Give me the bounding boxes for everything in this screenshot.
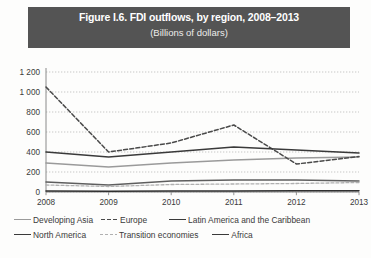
x-axis-tick-label: 2013 (350, 198, 369, 207)
legend-row-2: North America Transition economies Afric… (14, 227, 364, 242)
legend-label-developing-asia: Developing Asia (33, 215, 93, 225)
x-axis-tick-labels: 200820092010201120122013 (37, 198, 369, 207)
figure-subtitle: (Billions of dollars) (28, 26, 350, 39)
chart-plot-area: 02004006008001 0001 200 2008200920102011… (0, 56, 371, 208)
legend-swatch-bar (14, 234, 31, 236)
legend-item-transition-economies[interactable]: Transition economies (100, 230, 198, 240)
y-axis-tick-label: 1 000 (20, 88, 41, 97)
figure-title-banner: Figure I.6. FDI outflows, by region, 200… (28, 7, 350, 48)
chart-legend: Developing Asia Europe Latin America and… (14, 212, 364, 242)
legend-item-europe[interactable]: Europe (101, 215, 147, 225)
gridlines-group (46, 72, 359, 192)
legend-label-transition-economies: Transition economies (119, 230, 198, 240)
y-axis-tick-label: 800 (26, 108, 40, 117)
page-title: Figure I.6. FDI outflows, by region, 200… (28, 11, 350, 24)
series-line-europe (46, 87, 359, 164)
y-axis-tick-labels: 02004006008001 0001 200 (20, 68, 41, 197)
legend-label-north-america: North America (33, 230, 86, 240)
legend-label-africa: Africa (231, 230, 252, 240)
y-axis-tick-label: 1 200 (20, 68, 41, 77)
legend-line-icon-latin-america (169, 215, 186, 224)
y-axis-tick-label: 0 (35, 188, 40, 197)
legend-item-africa[interactable]: Africa (212, 230, 252, 240)
legend-line-icon-europe (101, 215, 118, 224)
line-chart-svg: 02004006008001 0001 200 2008200920102011… (0, 56, 371, 208)
legend-item-north-america[interactable]: North America (14, 230, 86, 240)
legend-line-icon-developing-asia (14, 215, 31, 224)
x-axis-tick-label: 2009 (99, 198, 118, 207)
legend-label-latin-america: Latin America and the Caribbean (188, 215, 310, 225)
data-series-group (46, 87, 359, 191)
legend-row-1: Developing Asia Europe Latin America and… (14, 212, 364, 227)
y-axis-tick-label: 400 (26, 148, 40, 157)
x-axis-tick-label: 2012 (287, 198, 306, 207)
y-axis-tick-label: 600 (26, 128, 40, 137)
legend-item-developing-asia[interactable]: Developing Asia (14, 215, 93, 225)
legend-swatch-bar (100, 234, 117, 236)
y-axis-tick-label: 200 (26, 168, 40, 177)
legend-label-europe: Europe (120, 215, 147, 225)
x-axis-tick-label: 2011 (225, 198, 243, 207)
legend-line-icon-transition-economies (100, 230, 117, 239)
legend-swatch-bar (14, 219, 31, 221)
legend-line-icon-north-america (14, 230, 31, 239)
legend-swatch-bar (169, 219, 186, 221)
legend-swatch-bar (101, 219, 118, 221)
x-axis-tick-label: 2010 (162, 198, 181, 207)
legend-item-latin-america[interactable]: Latin America and the Caribbean (169, 215, 310, 225)
figure-container: Figure I.6. FDI outflows, by region, 200… (0, 0, 371, 258)
x-axis-tick-label: 2008 (37, 198, 56, 207)
legend-line-icon-africa (212, 230, 229, 239)
legend-swatch-bar (212, 234, 229, 236)
